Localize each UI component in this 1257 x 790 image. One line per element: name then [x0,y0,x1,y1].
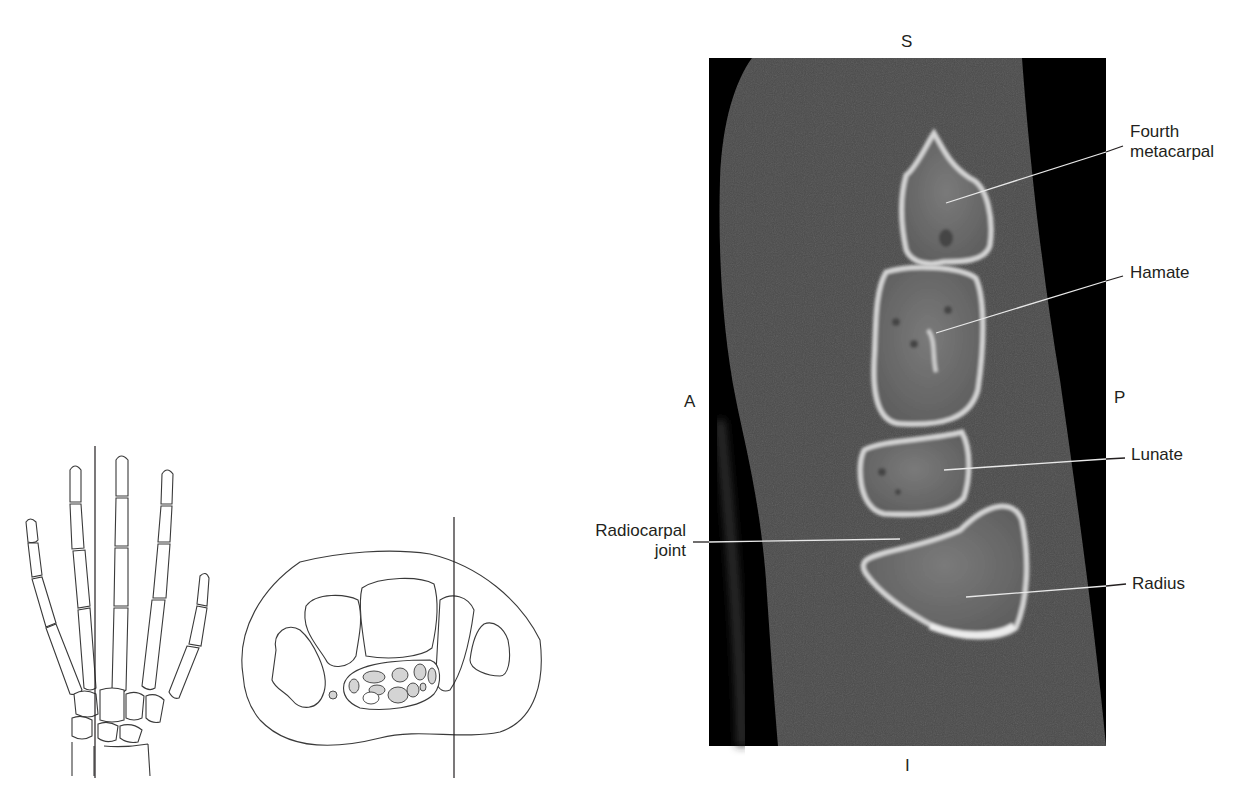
orientation-inferior: I [905,756,910,776]
label-fourth-metacarpal-line1: Fourth [1130,122,1214,142]
label-radiocarpal-line1: Radiocarpal [560,521,686,541]
orientation-superior: S [901,32,912,52]
orientation-posterior: P [1114,388,1125,408]
label-fourth-metacarpal: Fourth metacarpal [1130,122,1214,162]
orientation-anterior: A [684,392,695,412]
label-radiocarpal-line2: joint [560,541,686,561]
label-hamate: Hamate [1130,263,1190,283]
label-radius: Radius [1132,574,1185,594]
sagittal-ct-image [0,0,1257,790]
label-lunate: Lunate [1131,445,1183,465]
label-fourth-metacarpal-line2: metacarpal [1130,142,1214,162]
label-radiocarpal-joint: Radiocarpal joint [560,521,686,561]
